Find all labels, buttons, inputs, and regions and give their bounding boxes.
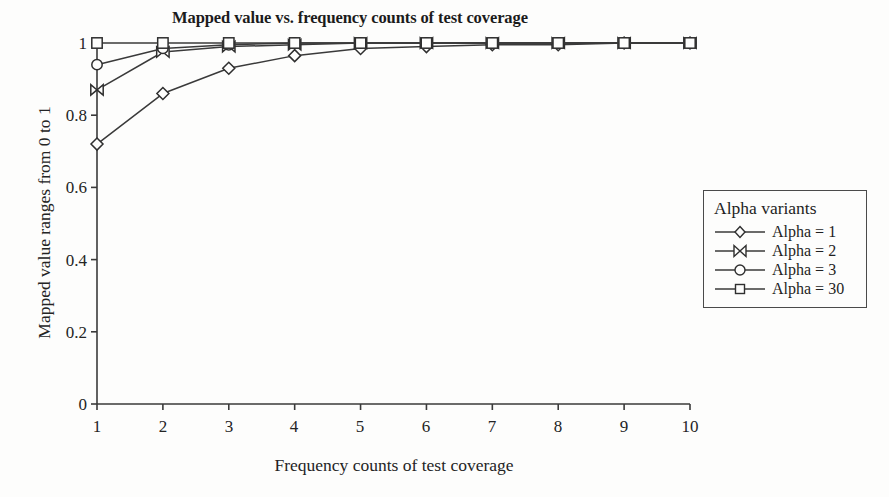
x-tick-label: 1 — [77, 418, 117, 435]
legend-item[interactable]: Alpha = 2 — [714, 241, 857, 260]
x-tick-label: 9 — [604, 418, 644, 435]
axes — [91, 43, 690, 410]
plot-area — [97, 43, 690, 404]
y-tick-label: 0.2 — [25, 324, 87, 341]
plot-canvas — [97, 43, 690, 404]
x-tick-label: 10 — [670, 418, 710, 435]
legend-item-label: Alpha = 1 — [766, 223, 836, 241]
chart-title: Mapped value vs. frequency counts of tes… — [0, 8, 700, 28]
x-tick-label: 7 — [472, 418, 512, 435]
y-axis-title: Mapped value ranges from 0 to 1 — [34, 33, 55, 413]
y-tick-label: 0.8 — [25, 107, 87, 124]
x-tick-label: 4 — [274, 418, 314, 435]
data-series-layer — [91, 37, 696, 150]
x-tick-label: 6 — [406, 418, 446, 435]
y-tick-label: 0.6 — [25, 179, 87, 196]
legend-item[interactable]: Alpha = 3 — [714, 260, 857, 279]
x-tick-label: 5 — [340, 418, 380, 435]
legend-title: Alpha variants — [714, 198, 857, 219]
chart-figure: Mapped value vs. frequency counts of tes… — [0, 0, 889, 497]
legend-item-label: Alpha = 3 — [766, 261, 836, 279]
bowtie-marker-icon — [714, 243, 766, 259]
x-tick-label: 2 — [143, 418, 183, 435]
x-tick-label: 8 — [538, 418, 578, 435]
legend-item[interactable]: Alpha = 1 — [714, 222, 857, 241]
legend: Alpha variants Alpha = 1 Alpha = 2 Alpha… — [703, 190, 867, 308]
y-tick-label: 1 — [25, 35, 87, 52]
square-marker-icon — [714, 281, 766, 297]
y-tick-label: 0.4 — [25, 252, 87, 269]
series-diamond — [91, 37, 696, 150]
legend-item-label: Alpha = 30 — [766, 280, 844, 298]
legend-item-label: Alpha = 2 — [766, 242, 836, 260]
y-tick-label: 0 — [25, 396, 87, 413]
x-tick-label: 3 — [209, 418, 249, 435]
circle-marker-icon — [714, 262, 766, 278]
diamond-marker-icon — [714, 224, 766, 240]
x-axis-title: Frequency counts of test coverage — [97, 455, 691, 476]
legend-item[interactable]: Alpha = 30 — [714, 279, 857, 298]
